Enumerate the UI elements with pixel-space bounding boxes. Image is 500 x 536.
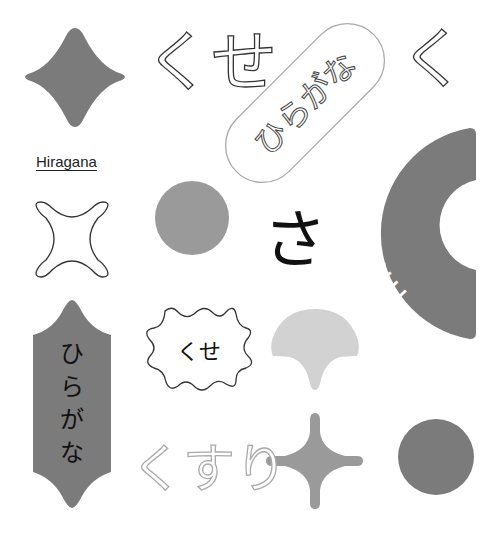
ku-outline-text: く: [400, 21, 466, 98]
circle-icon: [398, 419, 474, 495]
circle-icon: [155, 181, 229, 255]
tag-char: が: [33, 404, 111, 437]
burst-badge-text: くせ: [177, 339, 221, 364]
sa-character: さ: [260, 200, 330, 280]
four-point-star-icon: [25, 28, 125, 127]
kusuri-outline-text: くすり: [131, 439, 287, 499]
arc-badge: HIRAGANA: [350, 128, 476, 339]
hiragana-link[interactable]: Hiragana: [36, 153, 97, 170]
ginkgo-leaf-icon: [271, 309, 359, 390]
x-star-outline-icon: [36, 202, 108, 277]
tag-char: ら: [33, 371, 111, 404]
kuse-outline-text: くせ: [145, 24, 277, 101]
tag-char: な: [33, 437, 111, 470]
vertical-tag-text: ひ ら が な: [33, 338, 111, 470]
tag-char: ひ: [33, 338, 111, 371]
